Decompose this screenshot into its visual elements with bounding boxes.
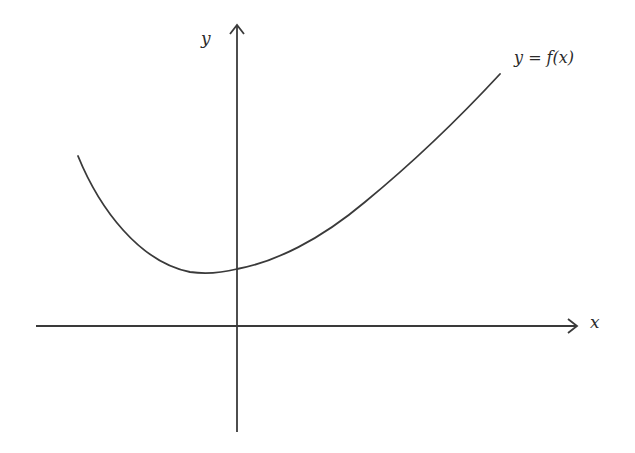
function-curve: [78, 74, 500, 273]
x-axis-label: x: [590, 314, 600, 331]
function-graph-diagram: y x y = f(x): [0, 0, 635, 453]
curve-label: y = f(x): [514, 50, 574, 66]
y-axis-label: y: [201, 30, 211, 47]
plot-area: [0, 0, 635, 453]
